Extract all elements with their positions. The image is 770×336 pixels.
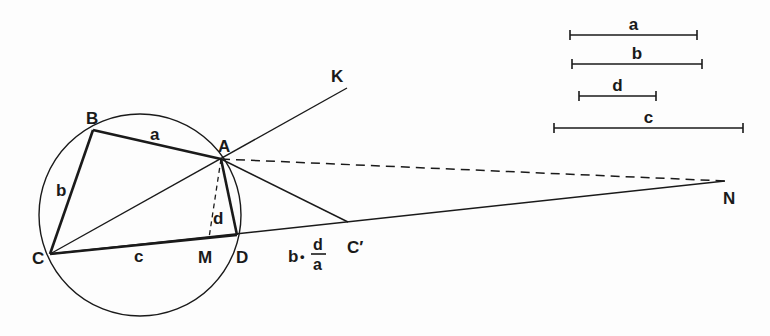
formula-numerator: d [313, 236, 323, 253]
side-label-b: b [56, 181, 66, 200]
point-label-Cprime: C′ [347, 238, 363, 257]
point-label-D: D [236, 248, 248, 267]
line-A-to-Cprime [221, 159, 348, 222]
dashed-line-A-to-N [221, 159, 725, 181]
diagram-canvas: B A C M D K C′ N a b c d b • d a abdc [0, 0, 770, 336]
point-label-K: K [331, 67, 344, 86]
reference-segment-label-a: a [629, 15, 639, 34]
point-label-C: C [32, 249, 44, 268]
reference-segment-label-d: d [612, 76, 622, 95]
formula-dot: • [300, 249, 305, 264]
reference-segment-label-c: c [644, 108, 653, 127]
side-label-a: a [150, 125, 160, 144]
point-label-M: M [198, 248, 212, 267]
side-label-d: d [213, 209, 223, 228]
point-label-N: N [723, 189, 735, 208]
side-label-c: c [134, 247, 143, 266]
point-label-A: A [218, 137, 230, 156]
side-A-to-D [221, 159, 237, 235]
point-label-B: B [86, 109, 98, 128]
reference-segments: abdc [554, 15, 743, 133]
reference-segment-label-b: b [632, 44, 642, 63]
formula-denominator: a [313, 256, 322, 273]
geometry-diagram: B A C M D K C′ N a b c d b • d a abdc [0, 0, 770, 336]
formula-prefix: b [288, 247, 298, 266]
circumcircle [39, 114, 241, 316]
